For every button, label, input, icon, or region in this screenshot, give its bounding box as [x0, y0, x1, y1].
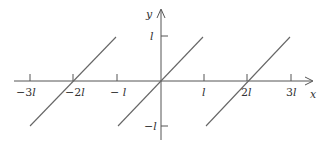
sawtooth-chart: −3l −2l − l l 2l 3l x y l −l: [0, 0, 327, 150]
x-tick-label-neg2: −2l: [65, 86, 85, 99]
x-tick-label-neg1: − l: [110, 86, 127, 99]
x-tick-label-3: 3l: [286, 86, 297, 99]
y-axis-label: y: [145, 8, 153, 21]
y-tick-label-pos: l: [150, 30, 154, 43]
y-tick-label-neg: −l: [144, 120, 157, 133]
x-axis-label: x: [310, 88, 317, 101]
x-tick-label-1: l: [202, 86, 206, 99]
x-tick-label-2: 2l: [241, 86, 252, 99]
chart-svg: −3l −2l − l l 2l 3l x y l −l: [0, 0, 327, 150]
x-tick-label-neg3: −3l: [16, 86, 36, 99]
